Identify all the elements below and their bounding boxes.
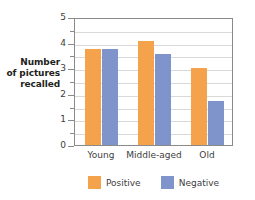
bar [191, 68, 207, 145]
legend-item[interactable]: Positive [88, 176, 141, 189]
bar-chart-figure: Number of pictures recalled 012345 Young… [0, 0, 255, 200]
x-axis-category-label: Old [167, 150, 247, 160]
chart-legend: PositiveNegative [74, 176, 233, 189]
y-tick-label: 5 [50, 13, 66, 22]
plot-area [74, 18, 233, 146]
bar [102, 49, 118, 145]
legend-label: Negative [179, 178, 219, 188]
legend-swatch-icon [88, 176, 101, 189]
bar [85, 49, 101, 145]
legend-swatch-icon [161, 176, 174, 189]
legend-label: Positive [106, 178, 141, 188]
y-tick-major [68, 146, 74, 147]
y-tick-label: 1 [50, 115, 66, 124]
y-tick-label: 4 [50, 39, 66, 48]
y-tick-label: 2 [50, 90, 66, 99]
bar [138, 41, 154, 145]
y-tick-label: 3 [50, 64, 66, 73]
y-axis-title: Number of pictures recalled [0, 57, 60, 90]
bar [208, 101, 224, 145]
y-axis-title-line-3: recalled [0, 79, 60, 90]
y-tick-label: 0 [50, 141, 66, 150]
legend-item[interactable]: Negative [161, 176, 219, 189]
bar [155, 54, 171, 145]
gridline [75, 32, 232, 33]
